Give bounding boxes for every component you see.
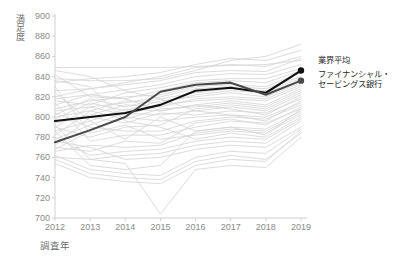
x-tick-label: 2017 [221,222,241,232]
x-tick-label: 2018 [256,222,276,232]
x-tick-label: 2019 [291,222,311,232]
x-axis-title: 調査年 [40,238,70,252]
chart-root: 満足度 900880860840820800780760740720700 20… [0,0,401,261]
x-tick-label: 2016 [186,222,206,232]
x-axis-ticks: 20122013201420152016201720182019 [0,0,401,261]
x-tick-label: 2013 [80,222,100,232]
legend-bank-series: ファイナンシャル・ セービングス銀行 [318,70,390,89]
x-tick-label: 2012 [45,222,65,232]
x-tick-label: 2015 [150,222,170,232]
x-tick-label: 2014 [115,222,135,232]
legend-industry-average: 業界平均 [318,56,350,66]
